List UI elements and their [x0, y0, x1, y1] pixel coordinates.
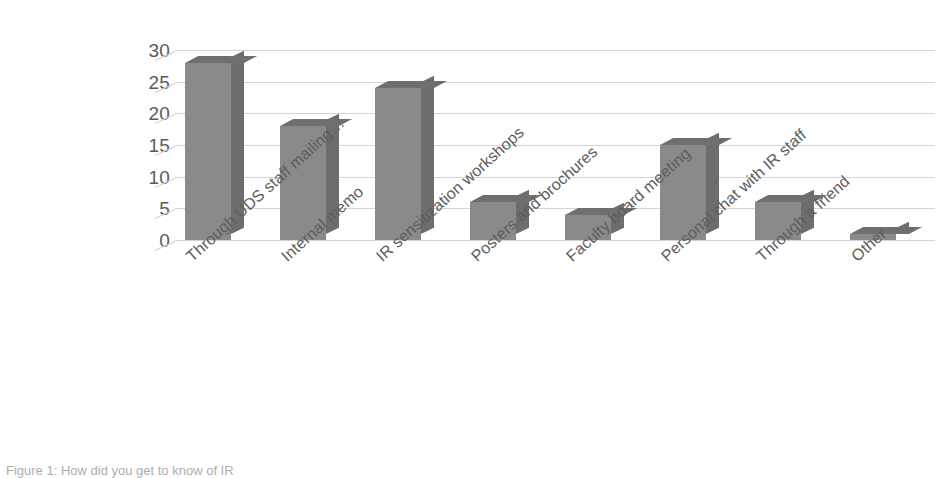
x-axis-label: Through a friend [753, 172, 853, 265]
x-axis-label: IR sensitization workshops [373, 124, 528, 266]
x-axis-label: Through UDS staff mailing… [183, 114, 348, 265]
x-axis-label: Internal memo [278, 183, 367, 266]
x-axis-label: Other [848, 225, 890, 265]
figure-caption: Figure 1: How did you get to know of IR [6, 463, 234, 478]
